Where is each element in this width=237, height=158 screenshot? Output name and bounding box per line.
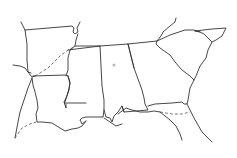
- city-marker: [112, 63, 115, 66]
- state-border-louisiana: [15, 78, 86, 138]
- state-border-fl-ga-dashed: [160, 112, 190, 114]
- state-border-tennessee-south: [76, 18, 200, 46]
- southeast-us-map: [0, 0, 237, 158]
- state-border-ms-la-east: [64, 76, 86, 103]
- coast-line-louisiana: [15, 122, 36, 138]
- state-border-alabama: [100, 44, 148, 122]
- state-border-georgia: [128, 41, 194, 106]
- state-border-la-ar: [33, 75, 68, 76]
- state-border-florida: [118, 104, 212, 142]
- state-border-south-carolina: [194, 28, 226, 80]
- state-border-oklahoma-texas: [13, 65, 31, 73]
